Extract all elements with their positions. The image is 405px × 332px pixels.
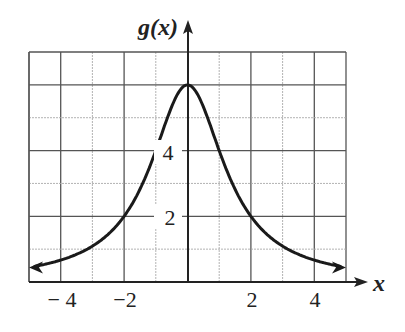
tick-x-neg2: −2 bbox=[113, 287, 136, 312]
curve-left-arrow-icon bbox=[29, 261, 43, 273]
x-axis-label: x bbox=[372, 270, 385, 296]
tick-x-4: 4 bbox=[310, 287, 321, 312]
tick-y-4: 4 bbox=[163, 140, 174, 165]
chart-svg: 4 2 − 4 −2 2 4 g(x) x bbox=[0, 0, 405, 332]
axes bbox=[29, 20, 368, 287]
tick-y-2: 2 bbox=[165, 205, 176, 230]
tick-x-neg4: − 4 bbox=[48, 287, 77, 312]
curve-right-arrow-icon bbox=[332, 261, 346, 273]
chart-figure: 4 2 − 4 −2 2 4 g(x) x bbox=[0, 0, 405, 332]
tick-x-2: 2 bbox=[247, 287, 258, 312]
y-axis-label: g(x) bbox=[137, 14, 178, 40]
